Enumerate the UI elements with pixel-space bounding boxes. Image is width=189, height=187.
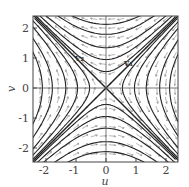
direction-arrow (127, 36, 133, 39)
direction-arrow (57, 97, 59, 103)
direction-arrow (109, 37, 115, 38)
trajectory (0, 152, 189, 187)
y-tick-label: 0 (22, 82, 29, 95)
direction-arrow (93, 79, 96, 85)
trajectory (0, 128, 189, 187)
direction-arrow (66, 97, 68, 103)
direction-arrow (82, 135, 88, 138)
y-tick-label: -1 (18, 112, 29, 125)
direction-arrow (109, 127, 115, 128)
direction-arrow (164, 124, 167, 129)
direction-arrow (109, 145, 115, 146)
direction-arrow (91, 36, 97, 37)
phase-portrait: -2 -1 0 1 2 2 1 0 -1 -2 u v v₂ v₁ (0, 0, 189, 187)
x-tick-label: 1 (133, 164, 140, 177)
direction-arrow (165, 97, 166, 103)
direction-arrow (174, 97, 175, 103)
direction-arrow (129, 97, 132, 103)
direction-arrow (93, 88, 95, 94)
direction-arrow (137, 61, 141, 66)
direction-arrow (136, 143, 142, 146)
direction-arrow (156, 70, 158, 76)
direction-arrow (82, 125, 88, 128)
direction-arrow (48, 97, 49, 103)
eigenvector-v1-label: v₁ (123, 58, 133, 68)
direction-arrow (147, 106, 150, 112)
direction-arrow (100, 118, 106, 119)
direction-arrow (58, 79, 59, 85)
direction-arrow (118, 27, 124, 29)
direction-arrow (57, 106, 60, 112)
direction-arrow (174, 106, 176, 112)
direction-arrow (39, 115, 42, 121)
direction-arrow (57, 70, 59, 76)
direction-arrow (91, 63, 97, 66)
direction-arrow (91, 144, 97, 145)
direction-arrow (73, 144, 79, 147)
direction-arrow (156, 97, 157, 103)
direction-arrow (120, 88, 121, 94)
direction-arrow (164, 52, 167, 58)
x-tick-label: -1 (69, 164, 80, 177)
direction-arrow (109, 46, 115, 47)
direction-arrow (91, 18, 97, 19)
x-tick-label: -2 (39, 164, 50, 177)
direction-arrow (67, 79, 68, 85)
direction-arrow (91, 27, 97, 28)
y-axis-label: v (5, 85, 18, 92)
direction-arrow (91, 126, 97, 128)
direction-arrow (76, 88, 77, 94)
direction-arrow (146, 61, 149, 67)
direction-arrow (65, 106, 68, 112)
direction-arrow (174, 70, 175, 76)
direction-arrow (138, 79, 139, 85)
direction-arrow (157, 79, 158, 85)
direction-arrow (85, 88, 86, 94)
direction-arrow (109, 28, 115, 29)
direction-arrow (136, 134, 141, 138)
direction-arrow (66, 70, 68, 76)
direction-arrow (49, 79, 50, 85)
direction-arrow (127, 53, 132, 57)
eigenvector-v2-label: v₂ (74, 53, 84, 63)
x-axis-label: u (101, 175, 108, 187)
direction-arrow (165, 106, 167, 112)
direction-arrow (73, 153, 79, 156)
y-tick-label: 2 (22, 22, 29, 35)
direction-arrow (118, 135, 124, 137)
direction-arrow (109, 54, 115, 55)
direction-arrow (82, 27, 88, 29)
direction-arrow (136, 26, 142, 29)
direction-arrow (118, 126, 124, 128)
direction-arrow (154, 17, 159, 21)
direction-arrow (139, 88, 140, 94)
direction-arrow (129, 79, 131, 85)
direction-arrow (174, 52, 177, 58)
direction-arrow (91, 135, 97, 137)
direction-arrow (48, 115, 51, 121)
direction-arrow (109, 63, 115, 65)
direction-arrow (109, 19, 115, 20)
direction-arrow (82, 18, 88, 20)
direction-arrow (82, 36, 88, 38)
direction-arrow (100, 72, 106, 73)
direction-arrow (84, 79, 86, 85)
direction-arrow (175, 79, 176, 85)
x-tick-label: 2 (163, 164, 170, 177)
direction-arrow (148, 79, 149, 85)
direction-arrow (136, 153, 142, 156)
direction-arrow (156, 61, 159, 67)
direction-arrow (130, 88, 131, 94)
direction-arrow (118, 18, 124, 19)
direction-arrow (100, 99, 106, 101)
direction-arrow (56, 52, 60, 57)
direction-arrow (109, 154, 115, 155)
direction-arrow (156, 106, 158, 112)
direction-arrow (136, 18, 142, 21)
direction-arrow (40, 79, 41, 85)
direction-arrow (127, 44, 133, 47)
y-tick-label: 1 (22, 52, 29, 65)
direction-arrow (109, 136, 115, 137)
direction-arrow (120, 79, 122, 85)
direction-arrow (173, 34, 177, 39)
